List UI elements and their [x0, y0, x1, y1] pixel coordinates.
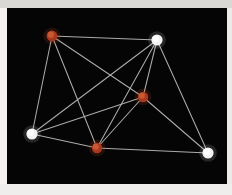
node-highlight	[139, 93, 145, 99]
plot-area	[7, 8, 227, 184]
graph-edge	[32, 134, 97, 148]
graph-edge	[32, 36, 52, 134]
node-highlight	[48, 32, 54, 38]
figure-border-bottom	[0, 184, 232, 195]
node-highlight	[93, 144, 99, 150]
node-highlight	[28, 129, 34, 135]
graph-node-c[interactable]	[135, 89, 152, 106]
graph-node-d[interactable]	[23, 125, 41, 143]
graph-edge	[143, 97, 208, 153]
figure-border-left	[0, 0, 7, 195]
edge-layer	[32, 36, 208, 153]
graph-figure	[0, 0, 232, 195]
graph-edge	[52, 36, 143, 97]
figure-border-top	[0, 0, 232, 8]
graph-edge	[32, 40, 157, 134]
node-highlight	[153, 35, 159, 41]
graph-edge	[52, 36, 157, 40]
graph-edge	[157, 40, 208, 153]
graph-node-f[interactable]	[199, 144, 217, 162]
graph-canvas	[7, 8, 227, 184]
graph-node-a[interactable]	[43, 27, 60, 44]
graph-node-e[interactable]	[89, 140, 106, 157]
node-layer	[23, 27, 217, 161]
graph-edge	[97, 148, 208, 153]
figure-border-right	[227, 0, 232, 195]
graph-edge	[52, 36, 97, 148]
node-highlight	[204, 148, 210, 154]
graph-node-b[interactable]	[148, 31, 166, 49]
